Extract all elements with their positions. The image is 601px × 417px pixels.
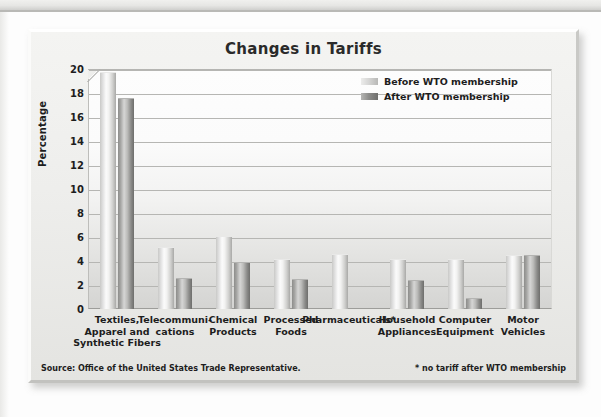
- bar-before: [216, 236, 232, 309]
- x-axis-label-line: Motor: [475, 314, 570, 326]
- bar-after: [292, 279, 308, 309]
- y-tick-label: 6: [58, 232, 84, 243]
- x-axis-category-labels: Textiles,Apparel andSynthetic FibersTele…: [88, 314, 552, 370]
- bar-before: [390, 259, 406, 309]
- footnote: * no tariff after WTO membership: [415, 364, 566, 373]
- y-tick-label: 4: [58, 256, 84, 267]
- bar-before: [448, 259, 464, 309]
- y-tick-label: 20: [58, 64, 84, 75]
- chart-legend: Before WTO membershipAfter WTO membershi…: [361, 76, 539, 106]
- y-tick-label: 14: [58, 136, 84, 147]
- y-tick-label: 16: [58, 112, 84, 123]
- legend-label: Before WTO membership: [384, 76, 518, 87]
- page-left-margin: [0, 12, 9, 417]
- page-top-rule: [0, 10, 601, 12]
- legend-swatch-icon: [361, 78, 378, 85]
- source-note: Source: Office of the United States Trad…: [41, 364, 301, 373]
- page-top-edge: [0, 0, 601, 10]
- legend-swatch-icon: [361, 93, 378, 100]
- y-axis-title: Percentage: [37, 151, 48, 167]
- bar-before: [100, 72, 116, 309]
- x-axis-label: MotorVehicles: [475, 314, 570, 337]
- bar-after: [466, 298, 482, 309]
- legend-item[interactable]: After WTO membership: [361, 91, 539, 102]
- x-axis-label-line: Synthetic Fibers: [69, 337, 164, 349]
- y-tick-label: 8: [58, 208, 84, 219]
- bar-after: [408, 280, 424, 309]
- bar-after: [118, 98, 134, 309]
- y-tick-label: 10: [58, 184, 84, 195]
- bar-after: [524, 255, 540, 309]
- y-tick-label: 12: [58, 160, 84, 171]
- chart-panel: Changes in Tariffs Percentage 2018161412…: [28, 29, 579, 383]
- page-background: Changes in Tariffs Percentage 2018161412…: [0, 0, 601, 417]
- y-tick-label: 2: [58, 280, 84, 291]
- y-tick-label: 0: [58, 304, 84, 315]
- bar-before: [506, 255, 522, 309]
- x-axis-label-line: Foods: [243, 326, 338, 338]
- bar-before: [332, 254, 348, 309]
- legend-label: After WTO membership: [384, 91, 509, 102]
- y-tick-label: 18: [58, 88, 84, 99]
- y-axis-tick-labels: 20181614121086420: [54, 69, 84, 309]
- bar-after: [176, 278, 192, 309]
- bar-before: [274, 259, 290, 309]
- bar-after: [234, 262, 250, 309]
- chart-title: Changes in Tariffs: [31, 40, 576, 58]
- x-axis-label-line: Vehicles: [475, 326, 570, 338]
- legend-item[interactable]: Before WTO membership: [361, 76, 539, 87]
- bar-before: [158, 247, 174, 309]
